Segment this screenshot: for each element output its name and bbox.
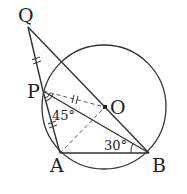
label-o: O — [110, 96, 126, 118]
label-q: Q — [18, 4, 34, 26]
label-a: A — [49, 154, 64, 176]
label-angle-30: 30° — [104, 138, 127, 153]
angle-arc-b — [131, 143, 133, 153]
label-angle-45: 45° — [52, 108, 75, 123]
geometry-diagram: Q P O A B 45° 30° — [0, 0, 187, 194]
segment-qb — [28, 27, 149, 153]
segment-po — [43, 91, 105, 107]
tick-mark-po — [72, 95, 78, 104]
center-point-o — [103, 105, 107, 109]
label-p: P — [27, 80, 40, 102]
label-b: B — [152, 154, 166, 176]
